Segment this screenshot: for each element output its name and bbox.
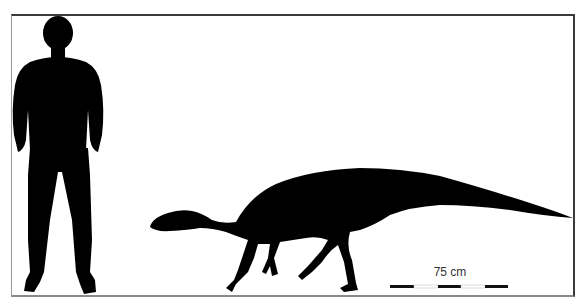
human-silhouette (13, 16, 104, 294)
comparison-scene (0, 0, 587, 305)
scale-segment-4 (461, 285, 485, 288)
scale-segment-3 (438, 285, 461, 288)
scale-segment-1 (390, 285, 414, 288)
scale-segment-5 (485, 285, 508, 288)
dinosaur-silhouette (150, 168, 573, 292)
scale-bar-label: 75 cm (420, 265, 480, 279)
scale-bar (390, 285, 508, 288)
scale-segment-2 (414, 285, 438, 288)
